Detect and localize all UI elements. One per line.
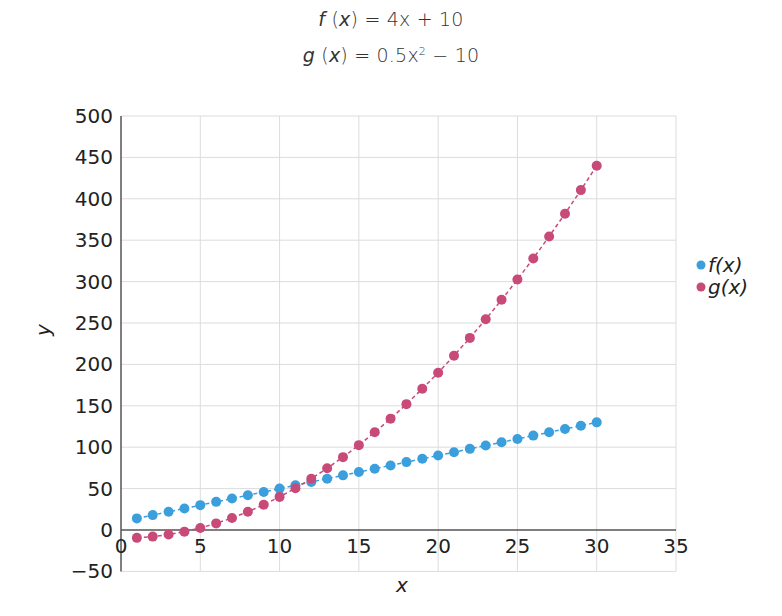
data-point <box>195 523 205 533</box>
data-point <box>481 314 491 324</box>
chart: −500501001502002503003504004505000510152… <box>0 0 782 616</box>
x-tick-label: 25 <box>505 534 530 558</box>
data-point <box>243 507 253 517</box>
data-point <box>560 424 570 434</box>
data-point <box>211 518 221 528</box>
y-tick-label: 400 <box>75 187 113 211</box>
x-tick-label: 10 <box>267 534 292 558</box>
y-tick-label: 450 <box>75 145 113 169</box>
data-point <box>512 434 522 444</box>
data-point <box>179 527 189 537</box>
data-point <box>259 500 269 510</box>
data-point <box>370 464 380 474</box>
data-point <box>243 490 253 500</box>
x-tick-label: 35 <box>663 534 688 558</box>
y-tick-label: 150 <box>75 394 113 418</box>
y-tick-label: 200 <box>75 352 113 376</box>
data-point <box>338 470 348 480</box>
data-point <box>322 474 332 484</box>
x-tick-label: 5 <box>194 534 207 558</box>
y-tick-label: 100 <box>75 435 113 459</box>
data-point <box>148 510 158 520</box>
x-tick-label: 30 <box>584 534 609 558</box>
data-point <box>401 457 411 467</box>
y-axis-label: y <box>31 323 55 337</box>
data-series <box>132 161 602 543</box>
data-point <box>386 460 396 470</box>
data-point <box>544 231 554 241</box>
data-point <box>354 440 364 450</box>
data-point <box>512 275 522 285</box>
y-tick-label: 250 <box>75 311 113 335</box>
data-point <box>275 492 285 502</box>
data-point <box>497 295 507 305</box>
data-point <box>354 467 364 477</box>
y-tick-label: 350 <box>75 228 113 252</box>
data-point <box>195 500 205 510</box>
data-point <box>179 503 189 513</box>
data-point <box>465 444 475 454</box>
data-point <box>132 533 142 543</box>
data-point <box>227 494 237 504</box>
data-point <box>259 487 269 497</box>
data-point <box>465 333 475 343</box>
data-point <box>576 185 586 195</box>
data-point <box>148 532 158 542</box>
series-line-g <box>137 166 597 538</box>
data-point <box>433 450 443 460</box>
legend-marker <box>697 261 706 270</box>
data-point <box>211 497 221 507</box>
data-point <box>401 399 411 409</box>
data-point <box>227 513 237 523</box>
data-point <box>592 417 602 427</box>
x-tick-label: 20 <box>425 534 450 558</box>
data-point <box>528 253 538 263</box>
y-tick-label: 300 <box>75 270 113 294</box>
data-point <box>481 441 491 451</box>
y-tick-label: −50 <box>71 559 113 583</box>
data-point <box>528 431 538 441</box>
data-point <box>290 483 300 493</box>
data-point <box>449 447 459 457</box>
legend: f(x)g(x) <box>697 253 749 299</box>
legend-label: g(x) <box>708 275 748 299</box>
data-point <box>386 414 396 424</box>
data-point <box>338 452 348 462</box>
data-point <box>449 351 459 361</box>
data-point <box>164 530 174 540</box>
legend-marker <box>697 283 706 292</box>
y-tick-label: 500 <box>75 104 113 128</box>
x-tick-label: 0 <box>115 534 128 558</box>
data-point <box>544 427 554 437</box>
data-point <box>592 161 602 171</box>
data-point <box>132 513 142 523</box>
data-point <box>164 507 174 517</box>
y-tick-label: 0 <box>100 518 113 542</box>
data-point <box>417 384 427 394</box>
data-point <box>433 368 443 378</box>
x-tick-label: 15 <box>346 534 371 558</box>
y-tick-label: 50 <box>88 477 113 501</box>
tick-labels: −500501001502002503003504004505000510152… <box>71 104 689 583</box>
data-point <box>370 427 380 437</box>
legend-label: f(x) <box>708 253 742 277</box>
data-point <box>306 474 316 484</box>
data-point <box>497 437 507 447</box>
data-point <box>576 421 586 431</box>
series-line-f <box>137 422 597 518</box>
data-point <box>560 209 570 219</box>
data-point <box>417 454 427 464</box>
x-axis-label: x <box>395 573 408 597</box>
data-point <box>322 463 332 473</box>
